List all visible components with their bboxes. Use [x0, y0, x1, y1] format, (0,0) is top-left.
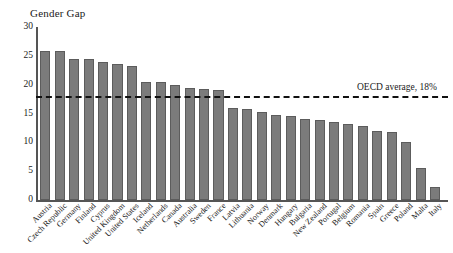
gender-gap-bar-chart: Gender Gap 302520151050 OECD average, 18… [0, 0, 453, 253]
bar [98, 62, 108, 200]
y-tick-label: 25 [3, 51, 33, 61]
bar [199, 89, 209, 200]
bar [170, 85, 180, 200]
y-tick-label: 5 [3, 166, 33, 176]
bar [69, 59, 79, 200]
oecd-average-label: OECD average, 18% [357, 82, 437, 92]
y-tick-label: 0 [3, 195, 33, 205]
chart-title: Gender Gap [30, 7, 85, 19]
bar [40, 51, 50, 200]
bar [112, 64, 122, 200]
oecd-average-line [36, 96, 448, 98]
y-tick-label: 15 [3, 109, 33, 119]
y-tick-label: 10 [3, 137, 33, 147]
bar [127, 66, 137, 200]
bar [55, 51, 65, 200]
y-tick-label: 30 [3, 22, 33, 32]
y-axis-tick-labels: 302520151050 [0, 0, 33, 253]
y-tick-label: 20 [3, 80, 33, 90]
x-axis-category-labels: AustriaCzech RepublicGermanyFinlandCypru… [36, 202, 448, 253]
